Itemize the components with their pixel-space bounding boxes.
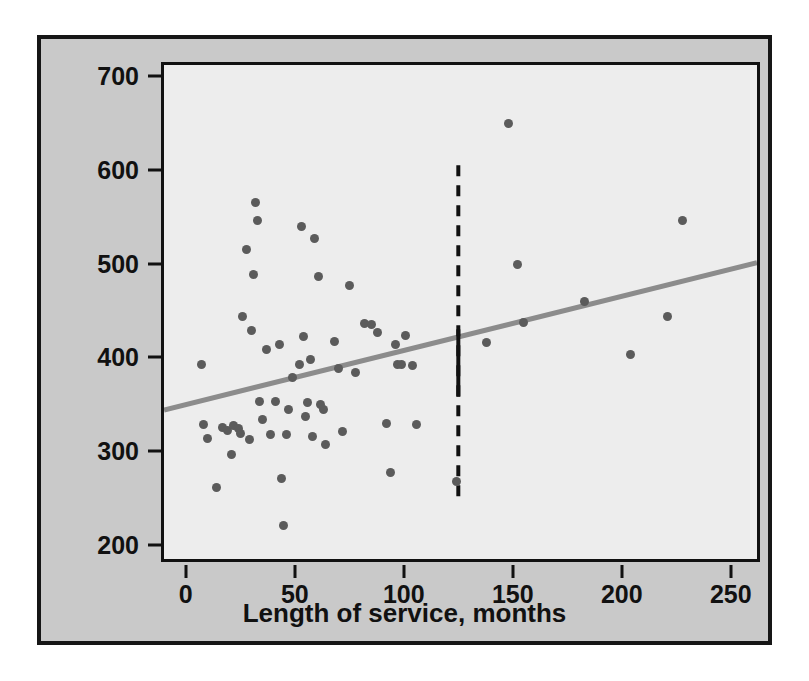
scatter-point [295, 360, 304, 369]
y-axis-tick-label: 600 [97, 155, 139, 184]
scatter-point [319, 405, 328, 414]
scatter-point [663, 312, 672, 321]
y-axis-ticks: 200300400500600700 [41, 39, 161, 641]
scatter-point [306, 355, 315, 364]
x-axis-tick-mark [293, 565, 296, 578]
scatter-point [373, 328, 382, 337]
scatter-point [412, 420, 421, 429]
scatter-point [288, 373, 297, 382]
scatter-point [345, 281, 354, 290]
y-axis-tick-label: 400 [97, 343, 139, 372]
y-axis-tick-mark [148, 450, 161, 453]
scatter-point [580, 297, 589, 306]
scatter-point [391, 340, 400, 349]
y-axis-tick-mark [148, 356, 161, 359]
x-axis-tick-mark [729, 565, 732, 578]
scatter-point [504, 119, 513, 128]
scatter-point [203, 434, 212, 443]
scatter-point [258, 415, 267, 424]
scatter-point [212, 483, 221, 492]
x-axis-tick-mark [620, 565, 623, 578]
scatter-point [382, 419, 391, 428]
scatter-point [310, 234, 319, 243]
x-axis-tick-mark [402, 565, 405, 578]
y-axis-tick-label: 200 [97, 530, 139, 559]
scatter-point [282, 430, 291, 439]
scatter-point [308, 432, 317, 441]
scatter-point [513, 260, 522, 269]
x-axis-tick-mark [184, 565, 187, 578]
y-axis-tick-mark [148, 75, 161, 78]
figure-root: Weekly earnings, dollars 200300400500600… [0, 0, 809, 681]
scatter-point [271, 397, 280, 406]
scatter-point [452, 477, 461, 486]
scatter-point [297, 222, 306, 231]
scatter-point [245, 435, 254, 444]
y-axis-tick-mark [148, 543, 161, 546]
scatter-point [247, 326, 256, 335]
y-axis-tick-label: 500 [97, 249, 139, 278]
scatter-point [197, 360, 206, 369]
plot-area [161, 62, 760, 562]
scatter-point [321, 440, 330, 449]
scatter-point [236, 429, 245, 438]
plot-inner [164, 65, 757, 559]
y-axis-tick-label: 700 [97, 62, 139, 91]
scatter-point [330, 337, 339, 346]
x-axis-title: Length of service, months [41, 598, 768, 629]
scatter-point [284, 405, 293, 414]
scatter-point [275, 340, 284, 349]
y-axis-tick-label: 300 [97, 437, 139, 466]
x-axis-tick-mark [511, 565, 514, 578]
regression-line [164, 263, 757, 410]
scatter-point [249, 270, 258, 279]
scatter-point [238, 312, 247, 321]
y-axis-tick-mark [148, 168, 161, 171]
y-axis-tick-mark [148, 262, 161, 265]
figure-frame: Weekly earnings, dollars 200300400500600… [37, 35, 772, 645]
